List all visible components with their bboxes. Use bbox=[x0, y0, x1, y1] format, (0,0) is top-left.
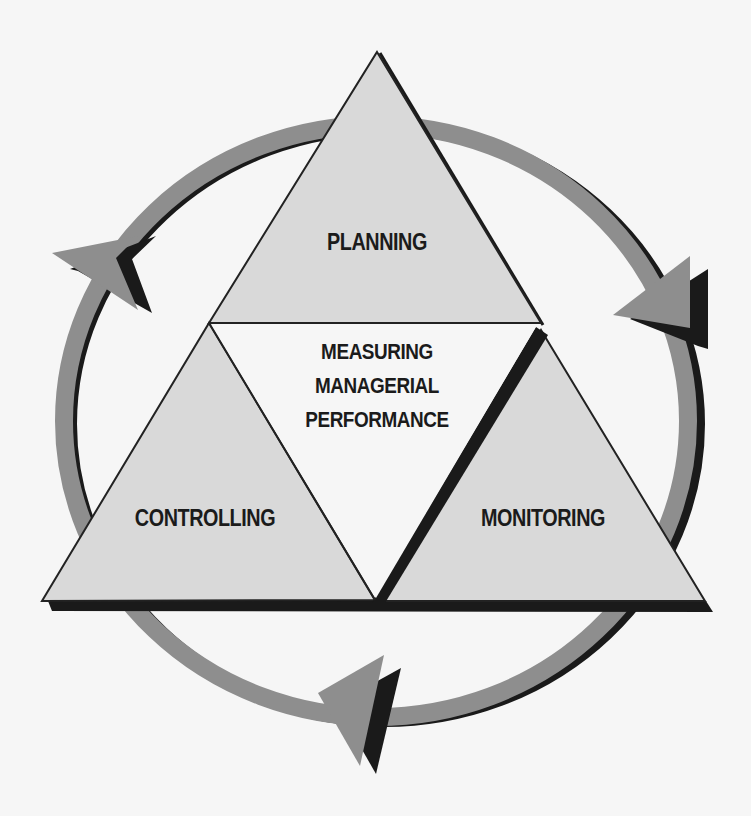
arrow-monitoring-to-controlling-icon bbox=[318, 655, 401, 774]
planning-triangle[interactable] bbox=[209, 52, 543, 325]
arrow-planning-to-monitoring-icon bbox=[613, 256, 708, 349]
planning-label: PLANNING bbox=[291, 229, 463, 256]
center-label: MEASURING MANAGERIAL PERFORMANCE bbox=[278, 335, 476, 437]
center-label-line-1: MEASURING bbox=[278, 335, 476, 369]
center-label-line-3: PERFORMANCE bbox=[278, 403, 476, 437]
controlling-label: CONTROLLING bbox=[119, 505, 291, 532]
monitoring-label: MONITORING bbox=[457, 505, 629, 532]
center-label-line-2: MANAGERIAL bbox=[278, 369, 476, 403]
